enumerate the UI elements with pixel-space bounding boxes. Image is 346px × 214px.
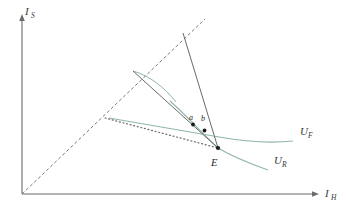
ur-curve-label: U R	[274, 154, 287, 169]
x-axis-label-sub: H	[330, 193, 337, 202]
point-b-marker	[203, 129, 207, 133]
point-e-marker	[216, 146, 220, 150]
uf-label-sub: F	[307, 131, 313, 140]
x-axis-label-main: I	[324, 187, 330, 199]
budget-line-shallow	[133, 71, 218, 148]
point-b-label: b	[201, 114, 205, 123]
ur-label-sub: R	[281, 160, 287, 169]
ur-curve	[170, 101, 268, 170]
point-e-label: E	[210, 157, 218, 168]
x-axis-arrowhead	[312, 191, 319, 197]
diagonal-45-line	[22, 19, 205, 194]
figure-canvas: I S I H U F U R a b E	[0, 0, 346, 214]
y-axis-arrowhead	[19, 14, 25, 21]
small-upper-curve	[133, 71, 176, 102]
x-axis-label: I H	[324, 187, 337, 202]
point-a-marker	[191, 123, 195, 127]
axes-group	[19, 14, 319, 197]
indifference-curve-figure: I S I H U F U R a b E	[0, 0, 346, 214]
y-axis-label-main: I	[24, 5, 30, 17]
uf-curve-label: U F	[300, 125, 313, 140]
y-axis-label: I S	[24, 5, 35, 20]
point-a-label: a	[189, 113, 193, 122]
y-axis-label-sub: S	[31, 11, 35, 20]
